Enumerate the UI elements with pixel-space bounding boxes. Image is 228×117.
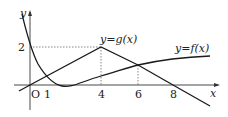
- function-graph: y x O 1 4 6 8 2 y=g(x) y=f(x): [0, 0, 228, 117]
- y-axis-label: y: [19, 7, 27, 20]
- tick-x6: 6: [135, 88, 142, 101]
- tick-x1: 1: [44, 88, 51, 101]
- tick-x8: 8: [170, 88, 177, 101]
- x-axis-label: x: [210, 87, 217, 100]
- tick-x4: 4: [98, 88, 105, 101]
- f-label: y=f(x): [174, 42, 209, 55]
- origin-label: O: [31, 88, 40, 101]
- g-label: y=g(x): [99, 33, 137, 46]
- y-axis-arrow-icon: [28, 10, 32, 16]
- tick-y2: 2: [18, 41, 25, 54]
